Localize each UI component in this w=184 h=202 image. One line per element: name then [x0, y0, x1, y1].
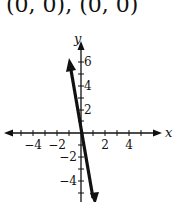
- x-axis-right-arrow-icon: [153, 130, 162, 137]
- x-axis: −4 −2 2 4 x: [4, 125, 173, 152]
- x-tick-label: 4: [125, 138, 133, 152]
- y-axis-label: y: [73, 31, 82, 46]
- x-axis-label: x: [165, 125, 173, 140]
- line-up-arrow-icon: [66, 58, 76, 72]
- y-tick-label: −4: [59, 174, 77, 188]
- y-tick-label: 2: [84, 103, 92, 117]
- coordinate-graph: −4 −2 2 4 x 6 4 2 −2 −4 y: [0, 0, 184, 202]
- x-axis-left-arrow-icon: [4, 130, 13, 137]
- y-tick-label: 4: [84, 79, 92, 93]
- y-axis: 6 4 2 −2 −4 y: [59, 31, 92, 202]
- x-tick-label: 2: [101, 138, 109, 152]
- y-tick-label: −2: [59, 150, 77, 164]
- x-tick-label: −4: [24, 138, 42, 152]
- y-tick-label: 6: [84, 55, 92, 69]
